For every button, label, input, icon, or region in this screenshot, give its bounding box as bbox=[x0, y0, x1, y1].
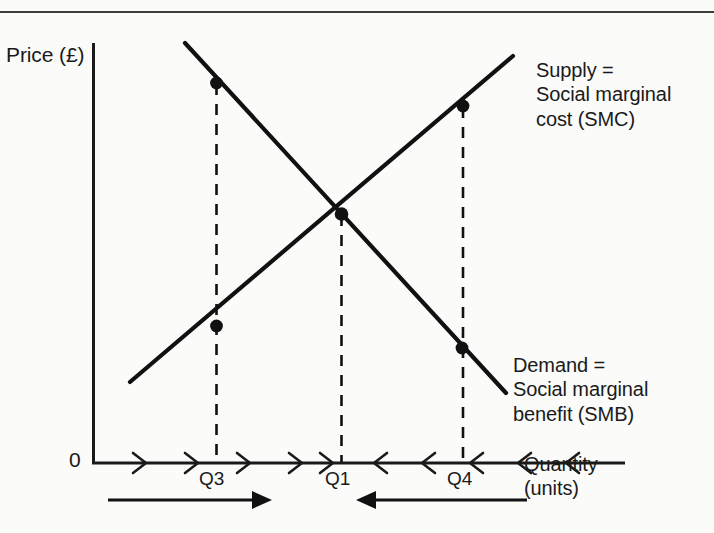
supply-label-line-2: Social marginal bbox=[536, 83, 671, 105]
origin-label: 0 bbox=[69, 447, 81, 473]
tick-label-q1: Q1 bbox=[325, 467, 350, 490]
x-axis-label-line-2: (units) bbox=[524, 477, 579, 499]
x-axis-label-line-1: Quantity bbox=[524, 453, 598, 475]
demand-curve-label: Demand =Social marginalbenefit (SMB) bbox=[513, 353, 648, 426]
supply-label-line-3: cost (SMC) bbox=[536, 108, 635, 130]
q4-demand-point bbox=[456, 342, 469, 355]
y-axis-label: Price (£) bbox=[6, 42, 84, 68]
supply-curve bbox=[130, 56, 513, 382]
supply-label-line-1: Supply = bbox=[536, 59, 614, 81]
supply-curve-label: Supply =Social marginalcost (SMC) bbox=[536, 58, 671, 131]
q4-supply-point bbox=[457, 100, 470, 113]
supply-demand-externality-diagram: Price (£) Supply =Social marginalcost (S… bbox=[0, 0, 714, 533]
q3-demand-point bbox=[210, 77, 223, 90]
q1-equilibrium-point bbox=[335, 207, 349, 221]
tick-label-q3: Q3 bbox=[199, 467, 224, 490]
demand-label-line-3: benefit (SMB) bbox=[513, 403, 634, 425]
demand-label-line-2: Social marginal bbox=[513, 378, 648, 400]
q3-supply-point bbox=[210, 320, 223, 333]
decrease-arrow bbox=[356, 491, 527, 509]
x-axis-label: Quantity(units) bbox=[524, 452, 598, 501]
tick-label-q4: Q4 bbox=[447, 467, 472, 490]
increase-arrow bbox=[108, 491, 272, 509]
demand-label-line-1: Demand = bbox=[513, 354, 605, 376]
